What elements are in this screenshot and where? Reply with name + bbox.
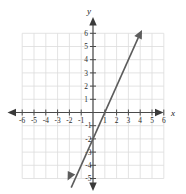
coordinate-plane-figure: -6 -5 -4 -3 -2 -1 1 2 3 4 5 6 6 5 4 3 2 … — [0, 0, 186, 194]
line-arrow-lower-left — [68, 171, 76, 180]
y-tick-label: 1 — [84, 95, 88, 104]
y-tick-label: 4 — [84, 55, 88, 64]
y-tick-label: 3 — [84, 69, 88, 78]
x-tick-label: -6 — [19, 116, 25, 125]
y-tick-label: -4 — [85, 161, 91, 170]
x-tick-label: 6 — [162, 116, 166, 125]
y-tick-label: 6 — [84, 29, 88, 38]
x-tick-label: 3 — [127, 116, 131, 125]
x-tick-label: -5 — [31, 116, 37, 125]
y-tick-label: 2 — [84, 82, 88, 91]
x-axis-label: x — [170, 108, 175, 118]
x-tick-label: 4 — [138, 116, 142, 125]
y-axis-tick-labels: 6 5 4 3 2 1 -1 -2 -3 -4 -5 -6 — [84, 29, 91, 183]
x-tick-label: 5 — [150, 116, 154, 125]
x-tick-label: -4 — [43, 116, 49, 125]
y-axis-label: y — [86, 6, 91, 16]
graph-canvas: -6 -5 -4 -3 -2 -1 1 2 3 4 5 6 6 5 4 3 2 … — [0, 0, 186, 194]
x-tick-label: -1 — [78, 116, 84, 125]
y-tick-label: -1 — [85, 121, 91, 130]
x-axis-arrow-left — [8, 109, 17, 116]
x-tick-label: -2 — [66, 116, 72, 125]
y-axis-arrow-up — [89, 17, 96, 26]
y-tick-label: -5 — [85, 174, 91, 183]
x-tick-label: -3 — [55, 116, 61, 125]
x-tick-label: 2 — [115, 116, 119, 125]
y-tick-label: 5 — [84, 42, 88, 51]
y-axis-arrow-down — [89, 183, 96, 192]
